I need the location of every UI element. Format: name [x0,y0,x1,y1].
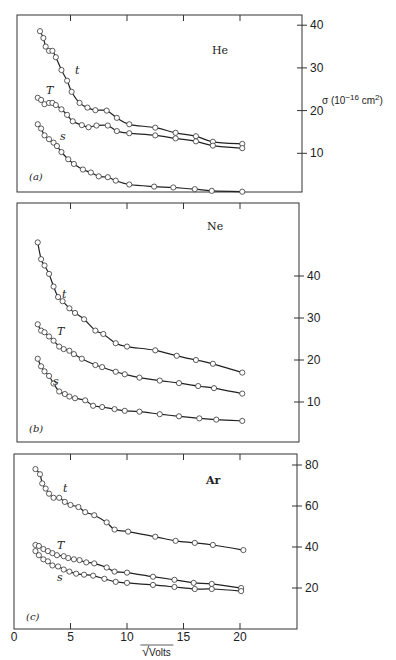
data-point [93,108,98,113]
data-point [241,547,246,552]
data-point [192,540,197,545]
curve-label-s: s [53,375,59,388]
data-point [69,89,74,94]
x-tick-label: 20 [233,630,247,644]
data-point [174,353,179,358]
y-tick-label: 40 [305,540,319,554]
data-point [62,499,67,504]
data-point [65,112,70,117]
y-tick-label: 40 [310,18,324,32]
data-point [122,408,127,413]
data-point [153,534,158,539]
data-point [113,579,118,584]
data-point [41,35,46,40]
data-point [76,504,81,509]
data-point [67,394,72,399]
data-point [240,391,245,396]
data-point [71,352,76,357]
data-point [93,362,98,367]
data-point [124,580,129,585]
data-point [85,105,90,110]
data-point [209,586,214,591]
curve-label-T: T [57,325,66,338]
data-point [51,284,56,289]
data-point [43,486,48,491]
curve-label-t: t [75,64,80,77]
data-point [51,338,56,343]
data-point [210,361,215,366]
plot-frame [17,203,299,442]
data-point [61,346,66,351]
panel-label: (a) [29,171,43,182]
data-point [93,328,98,333]
data-point [193,357,198,362]
data-point [46,373,51,378]
data-point [102,576,107,581]
data-point [71,557,76,562]
data-point [240,189,245,194]
data-point [55,294,60,299]
data-point [53,102,58,107]
data-point [104,520,109,525]
data-point [66,555,71,560]
data-point [77,100,82,105]
data-point [193,139,198,144]
data-point [214,417,219,422]
data-point [173,130,178,135]
data-point [70,119,75,124]
y-tick-label: 30 [307,311,321,325]
data-point [197,416,202,421]
data-point [91,573,96,578]
data-point [59,67,64,72]
data-point [173,538,178,543]
data-point [83,398,88,403]
data-point [94,123,99,128]
x-tick-label: 10 [120,630,134,644]
data-point [66,157,71,162]
data-point [35,240,40,245]
data-point [112,407,117,412]
data-point [137,375,142,380]
curve-label-T: T [46,84,55,97]
data-point [86,125,91,130]
plot-frame [17,15,302,192]
data-point [54,143,59,148]
data-point [153,133,158,138]
data-point [79,123,84,128]
data-point [105,123,110,128]
data-point [53,55,58,60]
data-point [192,187,197,192]
data-point [176,381,181,386]
data-point [210,143,215,148]
panel-ar: 05101520√Volts20406080Ar(c)tTs [11,454,319,659]
data-point [91,403,96,408]
data-point [150,574,155,579]
data-point [240,370,245,375]
data-point [57,495,62,500]
data-point [209,581,214,586]
data-point [81,572,86,577]
data-point [42,133,47,138]
data-point [209,188,214,193]
data-point [157,412,162,417]
x-tick-label: 5 [67,630,74,644]
data-point [172,577,177,582]
data-point [51,495,56,500]
data-point [113,178,118,183]
data-point [46,271,51,276]
data-point [65,78,70,83]
data-point [112,527,117,532]
y-tick-label: 20 [305,581,319,595]
data-point [96,174,101,179]
data-point [113,369,118,374]
data-point [45,559,50,564]
x-axis-title: √Volts [142,644,171,659]
data-point [72,396,77,401]
data-point [114,128,119,133]
data-point [36,553,41,558]
data-point [37,29,42,34]
gas-label: He [212,44,228,57]
data-point [152,184,157,189]
data-point [114,115,119,120]
data-point [50,563,55,568]
